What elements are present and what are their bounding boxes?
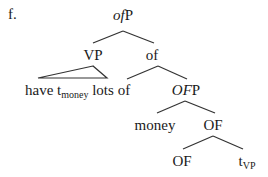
root-node-italic: of [113, 7, 125, 23]
node-money: money [135, 117, 176, 133]
trace-subscript-money: money [61, 89, 88, 100]
vp-word-have-t: have t [25, 82, 61, 98]
vp-word-lots-of: lots of [88, 82, 130, 98]
node-trace-VP: tVP [239, 153, 256, 169]
node-VP: VP [83, 47, 102, 63]
node-OF-lower: OF [172, 153, 191, 169]
node-of: of [146, 47, 159, 63]
example-label: f. [8, 6, 17, 22]
vp-content: have tmoney lots of [25, 82, 130, 98]
root-node-plain: P [125, 7, 133, 23]
ofp-plain: P [192, 82, 200, 98]
node-OF-upper: OF [203, 117, 222, 133]
root-node-ofP: ofP [113, 7, 133, 23]
ofp-italic: OF [172, 82, 192, 98]
trace-subscript-VP: VP [243, 160, 256, 171]
node-OFP: OFP [172, 82, 200, 98]
